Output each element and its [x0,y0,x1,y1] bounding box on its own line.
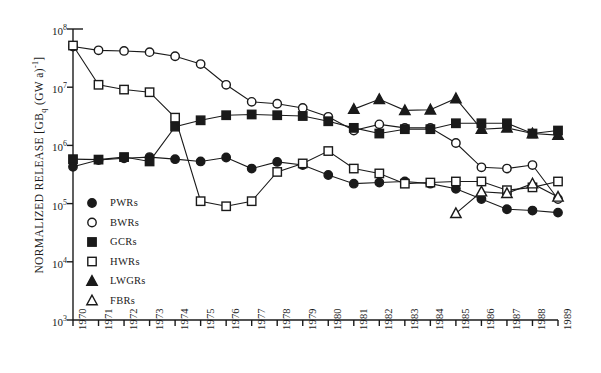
data-point-filled-triangle [374,94,384,104]
data-point-filled-circle [247,164,255,172]
data-point-open-square [324,147,332,155]
y-axis-tick-label: 104 [25,255,67,270]
data-point-open-square [375,169,383,177]
data-point-filled-square [350,124,358,132]
legend-marker-bwrs [88,218,96,226]
data-point-open-circle [247,98,255,106]
x-axis-tick-label: 1973 [154,308,165,330]
data-point-open-square [350,164,358,172]
legend-label-hwrs: HWRs [110,256,140,268]
x-axis-tick-label: 1984 [434,308,445,330]
data-point-open-circle [273,100,281,108]
x-axis-tick-label: 1981 [358,308,369,330]
y-axis-tick-label: 108 [25,22,67,37]
data-point-open-circle [145,48,153,56]
data-point-filled-square [324,117,332,125]
y-axis-tick-label: 107 [25,80,67,95]
data-point-open-square [247,197,255,205]
legend-marker-gcrs [88,238,96,246]
data-point-filled-circle [350,179,358,187]
data-point-filled-triangle [451,93,461,103]
x-axis-tick-label: 1989 [562,308,573,330]
data-point-filled-circle [171,155,179,163]
y-axis-tick-label: 106 [25,138,67,153]
data-point-filled-circle [528,206,536,214]
data-point-open-square [452,177,460,185]
data-point-filled-circle [554,208,562,216]
legend-marker-lwgrs [87,276,97,286]
data-point-filled-square [120,153,128,161]
x-axis-tick-label: 1988 [536,308,547,330]
x-axis-tick-label: 1974 [179,308,190,330]
data-point-filled-square [222,111,230,119]
data-point-filled-circle [375,178,383,186]
data-point-open-square [171,113,179,121]
data-point-filled-square [426,125,434,133]
x-axis-tick-label: 1985 [460,308,471,330]
x-axis-tick-label: 1970 [77,308,88,330]
data-point-filled-square [273,111,281,119]
data-point-open-square [196,197,204,205]
x-axis-tick-label: 1980 [332,308,343,330]
chart-figure: NORMALIZED RELEASE [GBq (GW a)-1] 103104… [0,0,601,373]
data-point-open-circle [452,139,460,147]
legend-marker-hwrs [88,257,96,265]
data-point-filled-triangle [425,104,435,114]
data-point-filled-circle [196,157,204,165]
data-point-filled-circle [324,171,332,179]
legend-label-lwgrs: LWGRs [110,275,146,287]
x-axis-tick-label: 1977 [256,308,267,330]
legend-label-pwrs: PWRs [110,197,138,209]
data-point-filled-square [401,125,409,133]
legend-label-gcrs: GCRs [110,236,137,248]
data-point-filled-square [375,129,383,137]
x-axis-tick-label: 1972 [128,308,139,330]
data-point-open-circle [375,120,383,128]
data-point-filled-circle [273,158,281,166]
x-axis-tick-label: 1976 [230,308,241,330]
x-axis-tick-label: 1986 [485,308,496,330]
data-point-open-circle [196,60,204,68]
x-axis-tick-label: 1983 [409,308,420,330]
data-point-open-square [222,202,230,210]
data-point-open-circle [94,46,102,54]
y-axis-tick-label: 103 [25,313,67,328]
data-point-filled-square [299,112,307,120]
data-point-open-square [273,168,281,176]
data-point-open-circle [477,163,485,171]
data-point-open-circle [120,47,128,55]
x-axis-tick-label: 1979 [307,308,318,330]
x-axis-tick-label: 1978 [281,308,292,330]
data-point-filled-circle [222,153,230,161]
data-point-filled-circle [503,205,511,213]
data-point-open-square [401,179,409,187]
data-point-open-square [554,177,562,185]
data-point-filled-square [69,155,77,163]
data-point-open-square [69,41,77,49]
data-point-open-triangle [476,186,486,196]
legend-marker-pwrs [88,199,96,207]
data-point-filled-square [196,116,204,124]
data-point-open-square [120,85,128,93]
data-point-open-square [145,88,153,96]
data-point-open-circle [503,164,511,172]
x-axis-tick-label: 1987 [511,308,522,330]
data-point-filled-triangle [349,104,359,114]
data-point-filled-square [145,157,153,165]
data-point-filled-square [94,155,102,163]
legend-marker-fbrs [87,295,97,305]
data-point-open-square [299,159,307,167]
x-axis-tick-label: 1971 [103,308,114,330]
data-point-open-square [94,81,102,89]
x-axis-tick-label: 1982 [383,308,394,330]
data-point-open-circle [528,161,536,169]
y-axis-tick-label: 105 [25,197,67,212]
data-point-open-circle [299,104,307,112]
data-point-open-circle [222,81,230,89]
legend-label-fbrs: FBRs [110,295,135,307]
data-point-open-triangle [451,208,461,218]
data-point-filled-square [452,119,460,127]
data-point-open-circle [171,52,179,60]
data-point-filled-square [247,110,255,118]
data-point-open-square [426,178,434,186]
